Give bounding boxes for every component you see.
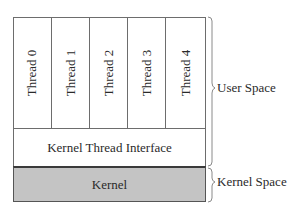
thread-architecture-diagram: Thread 0 Thread 1 Thread 2 Thread 3 Thre… [0, 0, 304, 210]
user-space-label: User Space [217, 80, 276, 96]
kernel-space-brace-icon [208, 168, 215, 202]
kernel-space-label: Kernel Space [217, 174, 287, 190]
user-space-brace-icon [208, 17, 215, 166]
